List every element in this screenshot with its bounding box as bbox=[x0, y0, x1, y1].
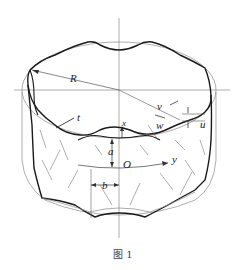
label-R: R bbox=[69, 72, 77, 84]
label-a: a bbox=[108, 145, 114, 157]
b-arrow-right bbox=[114, 183, 119, 187]
b-arrow-left bbox=[91, 183, 96, 187]
a-arrow-bottom bbox=[110, 162, 114, 167]
label-t: t bbox=[77, 111, 81, 123]
label-v: v bbox=[157, 100, 162, 112]
label-O: O bbox=[123, 158, 131, 170]
radius-arrow-head bbox=[32, 70, 39, 74]
y-arrow-head bbox=[162, 161, 168, 166]
label-u: u bbox=[200, 118, 206, 130]
label-x: x bbox=[121, 118, 126, 128]
a-arrow-top bbox=[110, 139, 114, 144]
w-dimension-line bbox=[155, 115, 165, 118]
label-b: b bbox=[102, 179, 108, 191]
figure-caption: 图 1 bbox=[113, 249, 133, 260]
cylindrical-shell-diagram: R v w u t x a O y b 图 1 bbox=[0, 0, 244, 270]
label-y: y bbox=[171, 153, 177, 165]
v-dimension-line bbox=[170, 101, 178, 105]
t-dimension-line bbox=[56, 118, 74, 128]
label-w: w bbox=[156, 119, 164, 131]
